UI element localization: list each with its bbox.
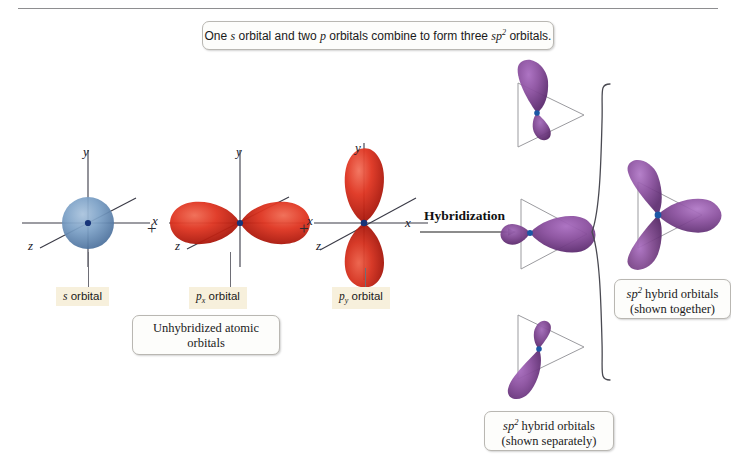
figure-canvas: One s orbital and two p orbitals combine… (0, 0, 731, 465)
plus-sign-2: + (299, 219, 309, 239)
px-axis-label-z: z (175, 238, 180, 254)
banner-caption: One s orbital and two p orbitals combine… (202, 21, 554, 50)
px-orbital-graphic (165, 145, 325, 275)
shown-separately-caption-line1: sp2 hybrid orbitals (485, 417, 613, 434)
px-orbital-leader-line (230, 252, 231, 287)
shown-separately-caption: sp2 hybrid orbitals (shown separately) (484, 411, 614, 451)
shown-together-caption: sp2 hybrid orbitals (shown together) (614, 279, 731, 319)
py-orbital-label: py orbital (332, 287, 390, 309)
px-orbital-label: px orbital (189, 287, 247, 309)
py-orbital-leader-line (365, 268, 366, 287)
header-divider (18, 8, 718, 9)
py-axis-label-y: y (355, 140, 361, 156)
unhybridized-caption: Unhybridized atomic orbitals (132, 315, 280, 355)
banner-caption-text: One s orbital and two p orbitals combine… (205, 28, 552, 43)
unhybridized-caption-line1: Unhybridized atomic (133, 321, 279, 336)
s-axis-label-z: z (28, 238, 33, 254)
py-axis-label-z: z (316, 238, 321, 254)
unhybridized-caption-line2: orbitals (133, 336, 279, 351)
px-axis-label-y: y (236, 144, 242, 160)
shown-separately-caption-line2: (shown separately) (485, 434, 613, 449)
hybrid-orbitals-together-graphic (602, 150, 730, 280)
s-orbital-leader-line (88, 252, 89, 287)
shown-together-caption-line1: sp2 hybrid orbitals (615, 285, 730, 302)
py-axis-label-x: x (405, 215, 411, 231)
s-axis-label-y: y (83, 144, 89, 160)
s-orbital-label: s orbital (56, 287, 109, 306)
shown-together-caption-line2: (shown together) (615, 302, 730, 317)
plus-sign-1: + (147, 219, 157, 239)
s-orbital-graphic (20, 145, 170, 275)
